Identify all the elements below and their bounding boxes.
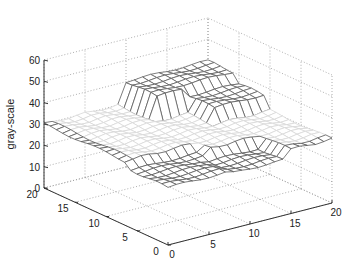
z-tick-label: 0 [34,183,40,194]
z-axis-label: gray-scale [4,99,16,150]
z-tick-label: 50 [29,76,41,87]
z-tick [44,103,48,104]
y-tick-label: 15 [57,203,69,214]
surface-mesh [44,60,332,187]
z-tick [44,167,48,168]
grid-line [137,189,301,231]
z-tick-label: 60 [29,55,41,66]
x-tick-label: 10 [248,228,260,239]
x-tick-label: 0 [169,249,175,260]
z-tick-label: 10 [29,162,41,173]
y-tick-label: 0 [153,246,159,257]
y-tick-label: 5 [122,232,128,243]
x-tick-label: 5 [210,239,216,250]
y-tick-label: 10 [88,218,100,229]
z-tick [44,145,48,146]
surface-plot: 05101520051015200102030405060 gray-scale [0,0,356,272]
z-tick [44,81,48,82]
x-tick-label: 20 [330,207,342,218]
x-tick-label: 15 [289,218,301,229]
z-tick-label: 20 [29,140,41,151]
grid-line [44,18,208,60]
z-tick [44,60,48,61]
z-tick [44,188,48,189]
z-tick-label: 40 [29,98,41,109]
z-tick-label: 30 [29,119,41,130]
